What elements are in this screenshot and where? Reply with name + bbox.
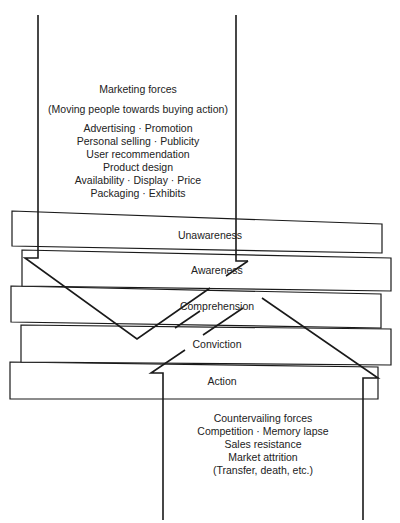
countervailing-force-item: Market attrition: [165, 451, 361, 464]
countervailing-forces-title: Countervailing forces: [165, 412, 361, 425]
marketing-force-item: Personal selling · Publicity: [40, 135, 236, 148]
marketing-force-item: Product design: [40, 161, 236, 174]
stage-conviction: Conviction: [192, 338, 241, 350]
band-action: [10, 362, 378, 399]
marketing-force-item: Availability · Display · Price: [40, 174, 236, 187]
marketing-forces-subtitle: (Moving people towards buying action): [40, 103, 236, 116]
countervailing-force-item: Competition · Memory lapse: [165, 425, 361, 438]
marketing-forces-title: Marketing forces: [40, 83, 236, 96]
marketing-forces-block: Marketing forces (Moving people towards …: [40, 83, 236, 200]
marketing-force-item: Packaging · Exhibits: [40, 187, 236, 200]
countervailing-force-item: (Transfer, death, etc.): [165, 464, 361, 477]
stage-unawareness: Unawareness: [178, 229, 242, 241]
marketing-force-item: Advertising · Promotion: [40, 122, 236, 135]
stage-comprehension: Comprehension: [180, 300, 254, 312]
countervailing-force-item: Sales resistance: [165, 438, 361, 451]
countervailing-forces-block: Countervailing forces Competition · Memo…: [165, 412, 361, 477]
marketing-force-item: User recommendation: [40, 148, 236, 161]
stage-awareness: Awareness: [191, 264, 243, 276]
stage-action: Action: [207, 375, 236, 387]
